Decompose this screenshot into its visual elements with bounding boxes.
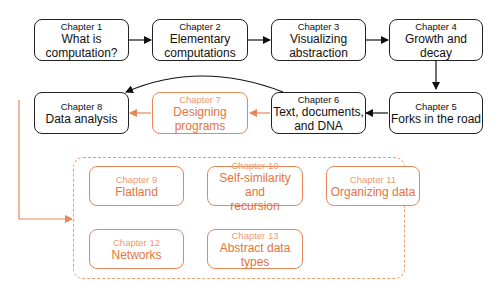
chapter-title-line: Text, documents, [273, 105, 364, 119]
chapter-title-line: computations [164, 46, 235, 60]
chapter-title-line: Growth and decay [390, 32, 482, 60]
chapter-13-box[interactable]: Chapter 13 Abstract data types [207, 229, 303, 269]
chapter-8-box[interactable]: Chapter 8 Data analysis [34, 92, 129, 134]
chapter-title-line: Designing [173, 105, 226, 119]
chapter-title-line: What is [61, 32, 101, 46]
chapter-title-line: programs [175, 119, 226, 133]
chapter-title-line: computation? [45, 46, 117, 60]
chapter-5-box[interactable]: Chapter 5 Forks in the road [389, 92, 483, 134]
chapter-title-line: Elementary [170, 32, 231, 46]
chapter-12-box[interactable]: Chapter 12 Networks [89, 229, 184, 269]
chapter-11-box[interactable]: Chapter 11 Organizing data [326, 166, 420, 206]
chapter-label: Chapter 10 [231, 160, 278, 171]
chapter-label: Chapter 11 [350, 174, 396, 185]
chapter-title-line: abstraction [289, 46, 348, 60]
chapter-title-line: recursion [230, 199, 279, 213]
chapter-title-line: Networks [111, 248, 161, 262]
chapter-title-line: Forks in the road [391, 112, 481, 126]
chapter-title-line: Flatland [115, 185, 158, 199]
chapter-2-box[interactable]: Chapter 2 Elementary computations [152, 19, 248, 61]
chapter-6-box[interactable]: Chapter 6 Text, documents, and DNA [271, 92, 366, 134]
chapter-4-box[interactable]: Chapter 4 Growth and decay [389, 19, 483, 61]
chapter-10-box[interactable]: Chapter 10 Self-similarity and recursion [207, 166, 303, 206]
chapter-label: Chapter 7 [179, 94, 221, 105]
chapter-label: Chapter 6 [298, 94, 340, 105]
chapter-label: Chapter 12 [113, 237, 160, 248]
chapter-label: Chapter 9 [116, 174, 158, 185]
chapter-label: Chapter 1 [61, 21, 103, 32]
chapter-label: Chapter 13 [231, 230, 278, 241]
chapter-title-line: Abstract data [220, 241, 291, 255]
chapter-title-line: and DNA [294, 119, 343, 133]
chapter-title-line: Visualizing [290, 32, 347, 46]
chapter-title-line: Organizing data [331, 185, 416, 199]
chapter-label: Chapter 5 [415, 101, 457, 112]
chapter-title-line: Self-similarity and [208, 171, 302, 199]
chapter-title-line: types [241, 255, 270, 269]
chapter-title-line: Data analysis [45, 112, 117, 126]
chapter-9-box[interactable]: Chapter 9 Flatland [89, 166, 184, 206]
chapter-3-box[interactable]: Chapter 3 Visualizing abstraction [271, 19, 366, 61]
chapter-label: Chapter 8 [61, 101, 103, 112]
chapter-1-box[interactable]: Chapter 1 What is computation? [34, 19, 129, 61]
arrow-ch6-ch8 [126, 76, 283, 92]
chapter-label: Chapter 3 [298, 21, 340, 32]
chapter-label: Chapter 4 [415, 21, 457, 32]
chapter-7-box[interactable]: Chapter 7 Designing programs [152, 92, 248, 134]
chapter-label: Chapter 2 [179, 21, 221, 32]
